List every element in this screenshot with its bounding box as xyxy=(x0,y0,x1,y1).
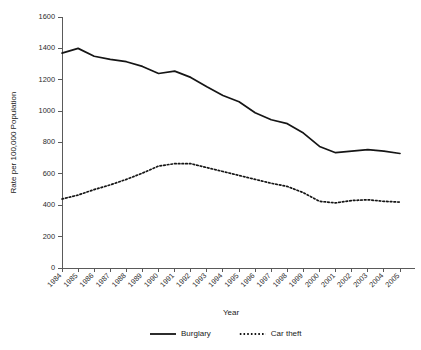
x-tick-label: 1990 xyxy=(142,271,160,289)
x-tick-label: 1988 xyxy=(110,271,128,289)
x-tick-label: 2001 xyxy=(319,271,337,289)
x-tick-label: 2000 xyxy=(303,271,321,289)
x-axis-title: Year xyxy=(223,308,240,317)
x-tick-label: 1997 xyxy=(255,271,273,289)
y-tick-label: 400 xyxy=(43,200,55,209)
x-tick-label: 1986 xyxy=(78,271,96,289)
x-tick-label: 2005 xyxy=(383,271,401,289)
x-tick-label: 1984 xyxy=(45,271,63,289)
y-tick-label: 600 xyxy=(43,169,55,178)
x-tick-label: 1985 xyxy=(62,271,80,289)
x-tick-label: 1993 xyxy=(190,271,208,289)
x-tick-label: 2002 xyxy=(335,271,353,289)
x-tick-label: 1992 xyxy=(174,271,192,289)
legend-label-car-theft: Car theft xyxy=(271,329,302,338)
series-line-burglary xyxy=(62,48,400,153)
y-tick-label: 1600 xyxy=(39,12,55,21)
x-tick-label: 1995 xyxy=(222,271,240,289)
x-tick-label: 1998 xyxy=(271,271,289,289)
y-tick-label: 800 xyxy=(43,137,55,146)
line-chart: 0200400600800100012001400160019841985198… xyxy=(0,0,421,350)
series-line-car-theft xyxy=(62,164,400,203)
x-tick-label: 1987 xyxy=(94,271,112,289)
x-tick-label: 2003 xyxy=(351,271,369,289)
y-tick-label: 1000 xyxy=(39,106,55,115)
x-tick-label: 2004 xyxy=(367,271,385,289)
y-tick-label: 0 xyxy=(51,263,55,272)
x-tick-label: 1996 xyxy=(239,271,257,289)
x-tick-label: 1991 xyxy=(158,271,176,289)
legend-label-burglary: Burglary xyxy=(181,329,211,338)
x-tick-label: 1999 xyxy=(287,271,305,289)
y-tick-label: 200 xyxy=(43,232,55,241)
y-tick-label: 1400 xyxy=(39,43,55,52)
x-tick-label: 1989 xyxy=(126,271,144,289)
y-tick-label: 1200 xyxy=(39,75,55,84)
y-axis-title: Rate per 100,000 Population xyxy=(9,92,18,194)
x-tick-label: 1994 xyxy=(206,271,224,289)
chart-container: 0200400600800100012001400160019841985198… xyxy=(0,0,421,350)
